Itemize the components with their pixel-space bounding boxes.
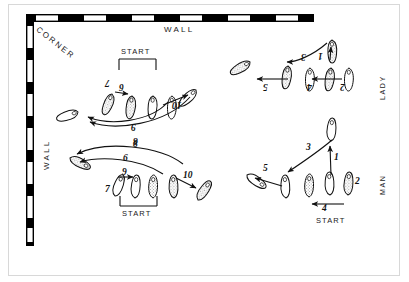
step-number-ll-7: 7: [105, 184, 110, 194]
wall-left: [26, 14, 34, 246]
start-label-lower-left: START: [122, 209, 151, 218]
start-bracket-upper-left: [119, 59, 156, 70]
lady-label: LADY: [379, 75, 386, 100]
man-label: MAN: [379, 175, 386, 195]
step-number-ll-8: 8: [133, 139, 138, 149]
step-number-lr-1: 1: [334, 152, 339, 162]
step-number-ur-5: 5: [263, 82, 268, 92]
start-label-lower-right: START: [316, 216, 345, 225]
step-number-lr-3: 3: [306, 142, 311, 152]
step-number-lr-2: 2: [355, 176, 360, 186]
step-number-ur-1: 1: [318, 51, 323, 61]
wall-top-label: WALL: [164, 25, 194, 34]
dance-step-diagram: WALL CORNER WALL LADY MAN START START ST…: [0, 0, 409, 282]
step-number-ul-10: 10: [172, 100, 182, 110]
step-number-ll-10: 10: [183, 170, 193, 180]
step-number-lr-5: 5: [263, 163, 268, 173]
step-number-ur-4: 4: [307, 82, 312, 92]
footprint-group-upper-right: [229, 40, 354, 91]
step-number-lr-4: 4: [322, 203, 327, 213]
step-number-ur-3: 3: [301, 52, 306, 62]
step-number-ul-7: 7: [105, 78, 110, 88]
step-number-ur-2: 2: [340, 82, 345, 92]
wall-top: [26, 14, 314, 22]
wall-left-label: WALL: [42, 140, 51, 170]
step-number-ul-9: 9: [131, 122, 136, 132]
step-number-ul-6: 6: [119, 82, 124, 92]
step-number-ll-9: 9: [122, 167, 127, 177]
step-number-ll-6: 6: [123, 153, 128, 163]
start-label-upper-left: START: [121, 47, 150, 56]
